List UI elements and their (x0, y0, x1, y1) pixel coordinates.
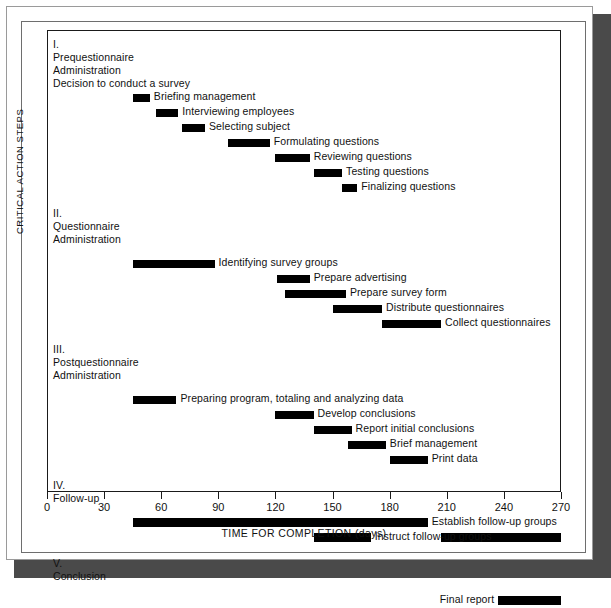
x-axis: 0306090120150180210240270 (47, 492, 561, 522)
gantt-bar-label: Identifying survey groups (219, 255, 338, 270)
gantt-bar[interactable] (228, 139, 270, 147)
gantt-row: Distribute questionnaires (47, 301, 561, 316)
x-axis-label: TIME FOR COMPLETION (days) (47, 527, 561, 539)
x-axis-tick (447, 492, 448, 499)
gantt-bar-label: Briefing management (154, 89, 256, 104)
x-axis-tick (561, 492, 562, 499)
gantt-row: Print data (47, 452, 561, 467)
x-axis-tick (218, 492, 219, 499)
x-axis-tick (275, 492, 276, 499)
x-axis-tick-label: 270 (552, 501, 570, 513)
gantt-row: Selecting subject (47, 120, 561, 135)
section-heading: III. Postquestionnaire Administration (53, 343, 139, 382)
gantt-bar[interactable] (277, 275, 309, 283)
gantt-row: Brief management (47, 437, 561, 452)
gantt-row: Briefing management (47, 90, 561, 105)
x-axis-tick-label: 180 (380, 501, 398, 513)
gantt-row: Prepare advertising (47, 271, 561, 286)
gantt-bar-label: Reviewing questions (314, 149, 412, 164)
gantt-bar[interactable] (133, 260, 215, 268)
gantt-bar-label: Develop conclusions (318, 406, 416, 421)
gantt-bar-label: Prepare survey form (350, 285, 447, 300)
gantt-bar-label: Formulating questions (274, 134, 379, 149)
gantt-bar-label: Distribute questionnaires (386, 300, 504, 315)
gantt-bar-label: Report initial conclusions (356, 421, 475, 436)
x-axis-tick-label: 150 (323, 501, 341, 513)
gantt-row: Final report (47, 593, 561, 608)
gantt-row: Report initial conclusions (47, 422, 561, 437)
gantt-bar[interactable] (275, 154, 309, 162)
gantt-bar-label: Interviewing employees (182, 104, 294, 119)
gantt-row: Prepare survey form (47, 286, 561, 301)
gantt-bar[interactable] (314, 426, 352, 434)
gantt-row: Formulating questions (47, 135, 561, 150)
section-heading: II. Questionnaire Administration (53, 207, 121, 246)
gantt-bar[interactable] (333, 305, 382, 313)
gantt-row: Identifying survey groups (47, 256, 561, 271)
gantt-bar-label: Preparing program, totaling and analyzin… (180, 391, 403, 406)
gantt-bar-label: Testing questions (346, 164, 429, 179)
gantt-plot-area: I. Prequestionnaire AdministrationDecisi… (47, 30, 561, 492)
x-axis-tick-label: 90 (212, 501, 224, 513)
x-axis-tick (504, 492, 505, 499)
gantt-bar[interactable] (285, 290, 346, 298)
y-axis-label: CRITICAL ACTION STEPS (14, 109, 25, 234)
x-axis-tick (104, 492, 105, 499)
gantt-bar[interactable] (314, 169, 343, 177)
gantt-bar[interactable] (342, 184, 357, 192)
x-axis-tick-label: 240 (495, 501, 513, 513)
gantt-bar[interactable] (382, 320, 441, 328)
gantt-bar-label: Brief management (390, 436, 477, 451)
gantt-row: Develop conclusions (47, 407, 561, 422)
gantt-bar[interactable] (182, 124, 205, 132)
x-axis-tick-label: 30 (98, 501, 110, 513)
gantt-row: Preparing program, totaling and analyzin… (47, 392, 561, 407)
gantt-bar[interactable] (133, 396, 177, 404)
gantt-row: Interviewing employees (47, 105, 561, 120)
gantt-bar-label: Print data (432, 451, 478, 466)
gantt-bar[interactable] (348, 441, 386, 449)
x-axis-tick-label: 120 (266, 501, 284, 513)
x-axis-tick-label: 210 (438, 501, 456, 513)
gantt-row: Finalizing questions (47, 180, 561, 195)
x-axis-tick-label: 60 (155, 501, 167, 513)
x-axis-tick (333, 492, 334, 499)
section-heading: I. Prequestionnaire Administration (53, 38, 134, 77)
gantt-bar-label: Finalizing questions (361, 179, 455, 194)
gantt-bar[interactable] (498, 596, 561, 605)
x-axis-tick (47, 492, 48, 499)
gantt-row: Testing questions (47, 165, 561, 180)
x-axis-tick-label: 0 (44, 501, 50, 513)
gantt-bar-label: Final report (440, 592, 494, 607)
gantt-bar[interactable] (133, 94, 150, 102)
gantt-bar[interactable] (275, 411, 313, 419)
section-heading: V. Conclusion (53, 557, 106, 583)
gantt-bar[interactable] (156, 109, 179, 117)
gantt-row: Reviewing questions (47, 150, 561, 165)
gantt-row: Collect questionnaires (47, 316, 561, 331)
gantt-bar[interactable] (390, 456, 428, 464)
gantt-bar-label: Collect questionnaires (445, 315, 551, 330)
gantt-bar-label: Prepare advertising (314, 270, 407, 285)
gantt-bar-label: Selecting subject (209, 119, 290, 134)
x-axis-tick (390, 492, 391, 499)
x-axis-tick (161, 492, 162, 499)
